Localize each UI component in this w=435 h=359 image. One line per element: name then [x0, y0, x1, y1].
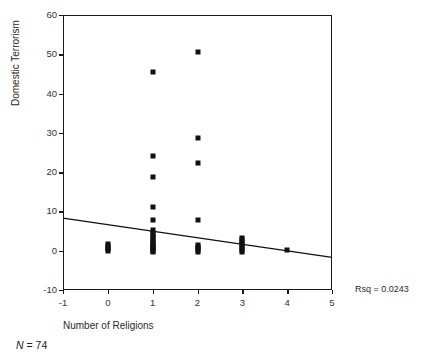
data-point	[150, 249, 155, 254]
data-point	[195, 218, 200, 223]
data-point	[285, 247, 290, 252]
y-tick-label: 60	[46, 8, 57, 21]
x-tick-mark	[198, 290, 199, 294]
y-tick-label: -10	[43, 283, 57, 296]
y-tick-label: 0	[52, 244, 57, 257]
data-point	[150, 69, 155, 74]
x-tick-mark	[108, 290, 109, 294]
data-point	[240, 249, 245, 254]
sample-size-annotation: N = 74	[16, 338, 47, 352]
x-tick-label: 1	[150, 296, 155, 309]
plot-area: -100102030405060	[63, 15, 332, 290]
data-point	[195, 135, 200, 140]
sample-size-value: = 74	[27, 339, 48, 351]
y-axis-title: Domestic Terrorism	[10, 20, 22, 106]
x-tick-mark	[242, 290, 243, 294]
sample-size-symbol: N	[16, 339, 24, 351]
data-point	[195, 249, 200, 254]
data-point	[150, 218, 155, 223]
y-tick-label: 50	[46, 47, 57, 60]
x-tick-mark	[153, 290, 154, 294]
x-tick-label: 5	[329, 296, 334, 309]
rsq-annotation: Rsq = 0.0243	[355, 283, 409, 295]
y-tick-label: 20	[46, 165, 57, 178]
scatter-plot-figure: -100102030405060 -1012345 Domestic Terro…	[0, 0, 435, 359]
x-tick-mark	[332, 290, 333, 294]
y-tick-label: 40	[46, 87, 57, 100]
data-point	[105, 242, 110, 247]
x-axis-title: Number of Religions	[63, 319, 154, 332]
x-tick-label: 4	[285, 296, 290, 309]
x-tick-mark	[287, 290, 288, 294]
x-tick-label: 0	[105, 296, 110, 309]
data-point	[150, 154, 155, 159]
y-tick-label: 30	[46, 126, 57, 139]
x-tick-label: -1	[59, 296, 67, 309]
y-tick-label: 10	[46, 204, 57, 217]
x-tick-label: 2	[195, 296, 200, 309]
x-tick-label: 3	[240, 296, 245, 309]
data-point	[150, 204, 155, 209]
data-point	[150, 174, 155, 179]
x-tick-mark	[63, 290, 64, 294]
data-point	[195, 50, 200, 55]
data-point	[195, 161, 200, 166]
